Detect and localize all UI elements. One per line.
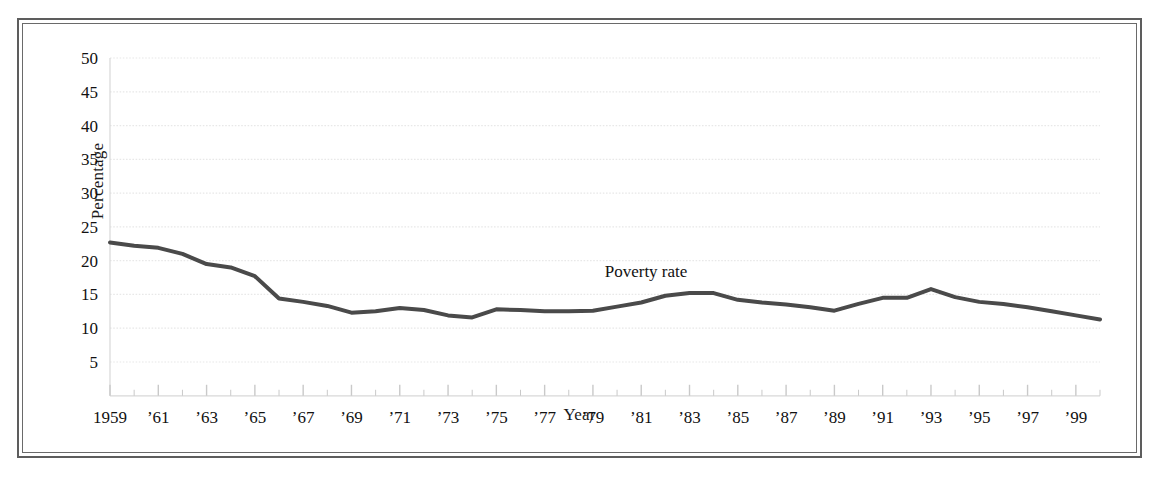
x-tick-label: ’71	[388, 408, 411, 427]
x-tick-label: ’91	[871, 408, 894, 427]
y-tick-label: 15	[81, 285, 98, 304]
x-tick-label: ’81	[630, 408, 653, 427]
x-tick-label: ’85	[726, 408, 749, 427]
x-tick-label: ’89	[823, 408, 846, 427]
x-tick-label: ’65	[244, 408, 267, 427]
y-tick-label: 50	[81, 49, 98, 68]
x-tick-label: ’69	[340, 408, 363, 427]
x-tick-label: 1959	[93, 408, 127, 427]
x-tick-label: ’99	[1065, 408, 1088, 427]
x-tick-label: ’63	[195, 408, 218, 427]
y-tick-label: 40	[81, 117, 98, 136]
plot-area-wrapper: Percentage Year 5101520253035404550 1959…	[22, 23, 1137, 453]
y-tick-label: 10	[81, 319, 98, 338]
y-tick-labels: 5101520253035404550	[81, 49, 98, 372]
y-tick-label: 5	[90, 353, 99, 372]
x-tick-label: ’97	[1016, 408, 1039, 427]
x-tick-label: ’83	[678, 408, 701, 427]
x-tick-label: ’95	[968, 408, 991, 427]
x-tick-label: ’67	[292, 408, 315, 427]
series-line	[110, 242, 1100, 319]
x-tick-label: ’79	[582, 408, 605, 427]
series-label: Poverty rate	[605, 262, 688, 281]
x-tick-label: ’61	[147, 408, 170, 427]
y-tick-label: 25	[81, 218, 98, 237]
y-tick-label: 45	[81, 83, 98, 102]
grid-lines	[110, 58, 1100, 362]
y-tick-label: 20	[81, 252, 98, 271]
x-tick-label: ’77	[533, 408, 556, 427]
figure-container: Percentage Year 5101520253035404550 1959…	[0, 0, 1163, 485]
x-tick-label: ’75	[485, 408, 508, 427]
y-tick-label: 30	[81, 184, 98, 203]
x-tick-label: ’73	[437, 408, 460, 427]
x-tick-label: ’93	[920, 408, 943, 427]
x-tick-labels: 1959’61’63’65’67’69’71’73’75’77’79’81’83…	[93, 408, 1087, 427]
y-tick-label: 35	[81, 150, 98, 169]
data-series	[110, 242, 1100, 319]
line-chart: 5101520253035404550 1959’61’63’65’67’69’…	[22, 23, 1137, 453]
series-annotations: Poverty rate	[605, 262, 688, 281]
x-tick-label: ’87	[775, 408, 798, 427]
